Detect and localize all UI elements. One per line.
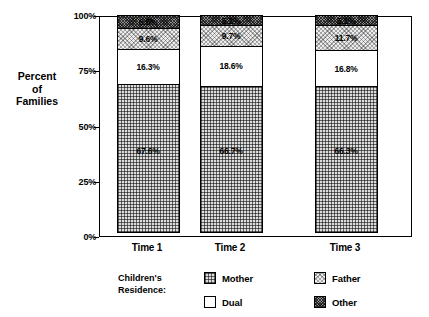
bar-segment-dual: 16.8% [315, 50, 378, 87]
x-axis-label: Time 2 [180, 242, 280, 253]
y-axis-tick-mark [94, 182, 99, 183]
bar-segment-mother: 66.7% [200, 86, 263, 233]
legend-label: Dual [222, 297, 242, 308]
bar-segment-value-label: 67.6% [136, 146, 159, 156]
bar-segment-other: 6.5% [117, 15, 180, 29]
bar-segment-father: 9.7% [200, 25, 263, 46]
y-axis-tick-mark [94, 16, 99, 17]
bar-time-1: 6.5%9.6%16.3%67.6% [117, 15, 180, 236]
bar-segment-mother: 67.6% [117, 84, 180, 233]
bar-time-3: 5.1%11.7%16.8%66.3% [315, 15, 378, 236]
legend-label: Other [332, 297, 357, 308]
bar-segment-value-label: 9.6% [139, 34, 158, 44]
legend-swatch-father [314, 272, 326, 284]
legend-item-other[interactable]: Other [314, 296, 357, 308]
y-axis-tick-mark [94, 71, 99, 72]
bar-segment-value-label: 16.3% [136, 62, 159, 72]
legend-label: Mother [222, 273, 253, 284]
bar-segment-value-label: 18.6% [219, 61, 242, 71]
bar-segment-value-label: 6.5% [139, 17, 158, 27]
bar-segment-father: 9.6% [117, 28, 180, 49]
legend-swatch-mother [204, 272, 216, 284]
bar-segment-value-label: 5.1% [337, 16, 356, 26]
bar-segment-dual: 18.6% [200, 46, 263, 87]
y-axis-tick-mark [94, 237, 99, 238]
bar-segment-value-label: 11.7% [335, 33, 358, 43]
bar-segment-value-label: 9.7% [222, 31, 241, 41]
legend-item-dual[interactable]: Dual [204, 296, 242, 308]
y-axis-tick-label: 100% [74, 11, 96, 21]
bar-segment-mother: 66.3% [315, 86, 378, 233]
legend-swatch-other [314, 296, 326, 308]
x-axis-label: Time 3 [295, 242, 395, 253]
bar-segment-dual: 16.3% [117, 49, 180, 85]
bar-segment-father: 11.7% [315, 25, 378, 51]
y-axis: 0%25%50%75%100% [58, 16, 96, 237]
legend-title: Children's Residence: [118, 273, 192, 296]
bar-time-2: 5.1%9.7%18.6%66.7% [200, 15, 263, 236]
bar-segment-value-label: 66.3% [334, 146, 357, 156]
plot-area: 6.5%9.6%16.3%67.6%5.1%9.7%18.6%66.7%5.1%… [99, 16, 412, 237]
legend-swatch-dual [204, 296, 216, 308]
bar-segment-value-label: 5.1% [222, 16, 241, 26]
legend-title-line-1: Children's [118, 273, 192, 285]
legend-item-mother[interactable]: Mother [204, 272, 253, 284]
bar-segment-value-label: 16.8% [334, 64, 357, 74]
y-axis-tick-mark [94, 127, 99, 128]
legend-title-line-2: Residence: [118, 285, 192, 297]
legend-label: Father [332, 273, 360, 284]
bar-segment-value-label: 66.7% [219, 146, 242, 156]
legend-item-father[interactable]: Father [314, 272, 360, 284]
